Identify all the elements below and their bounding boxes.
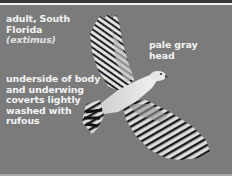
subspecies-name: (extimus) (6, 35, 70, 46)
underside-annotation-line1: underside of body (6, 74, 100, 85)
underside-annotation: underside of body and underwing coverts … (6, 74, 100, 127)
head-annotation: pale gray head (149, 40, 197, 61)
bird-illustration-panel: adult, South Florida (extimus) pale gray… (0, 0, 232, 176)
head-annotation-line1: pale gray (149, 40, 197, 51)
subject-caption: adult, South Florida (extimus) (6, 14, 70, 46)
bottom-border-line (0, 174, 232, 176)
underside-annotation-line5: rufous (6, 116, 100, 127)
subject-caption-line1: adult, South (6, 14, 70, 25)
head-annotation-line2: head (149, 51, 197, 62)
